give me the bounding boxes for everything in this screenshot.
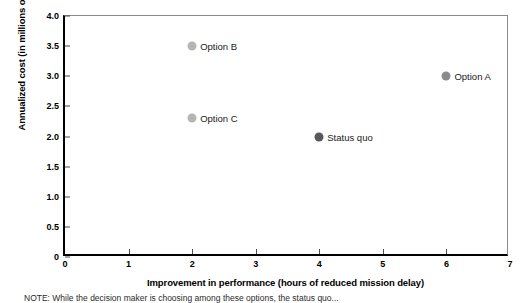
- data-point-label: Status quo: [327, 131, 372, 142]
- chart-footnote: NOTE: While the decision maker is choosi…: [24, 293, 504, 303]
- x-tick-label: 6: [444, 259, 449, 269]
- y-tick-label: 2.5: [46, 101, 59, 111]
- data-point-marker[interactable]: [188, 42, 197, 51]
- plot-area: 00.51.01.52.02.53.03.54.0 01234567 Optio…: [63, 15, 508, 256]
- y-tick-label: 4.0: [46, 11, 59, 21]
- data-point-label: Option A: [454, 71, 490, 82]
- y-tick-label: 1.0: [46, 192, 59, 202]
- y-tick-mark: [65, 226, 70, 227]
- y-tick-label: 0: [54, 252, 59, 262]
- y-tick-mark: [65, 76, 70, 77]
- y-tick-mark: [65, 136, 70, 137]
- y-tick-mark: [65, 166, 70, 167]
- y-tick-mark: [65, 46, 70, 47]
- y-tick-label: 2.0: [46, 132, 59, 142]
- y-tick-label: 0.5: [46, 222, 59, 232]
- x-tick-label: 3: [253, 259, 258, 269]
- data-point-label: Option B: [200, 41, 237, 52]
- y-tick-label: 3.5: [46, 41, 59, 51]
- x-tick-label: 1: [126, 259, 131, 269]
- y-tick-mark: [65, 196, 70, 197]
- y-tick-mark: [65, 106, 70, 107]
- y-tick-mark: [65, 257, 70, 258]
- data-point-marker[interactable]: [442, 72, 451, 81]
- x-tick-mark: [446, 249, 447, 254]
- data-point-marker[interactable]: [188, 114, 197, 123]
- x-tick-label: 5: [380, 259, 385, 269]
- x-tick-label: 7: [507, 259, 512, 269]
- data-point-marker[interactable]: [315, 132, 324, 141]
- x-axis-title: Improvement in performance (hours of red…: [63, 277, 508, 288]
- x-tick-mark: [129, 249, 130, 254]
- x-tick-mark: [383, 249, 384, 254]
- x-tick-mark: [192, 249, 193, 254]
- x-tick-mark: [256, 249, 257, 254]
- x-tick-label: 4: [317, 259, 322, 269]
- y-axis-title: Annualized cost (in millions of dollars): [16, 0, 27, 161]
- y-tick-label: 1.5: [46, 162, 59, 172]
- data-point-label: Option C: [200, 113, 238, 124]
- x-tick-label: 2: [190, 259, 195, 269]
- x-tick-mark: [319, 249, 320, 254]
- y-tick-label: 3.0: [46, 71, 59, 81]
- x-tick-label: 0: [62, 259, 67, 269]
- y-tick-mark: [65, 16, 70, 17]
